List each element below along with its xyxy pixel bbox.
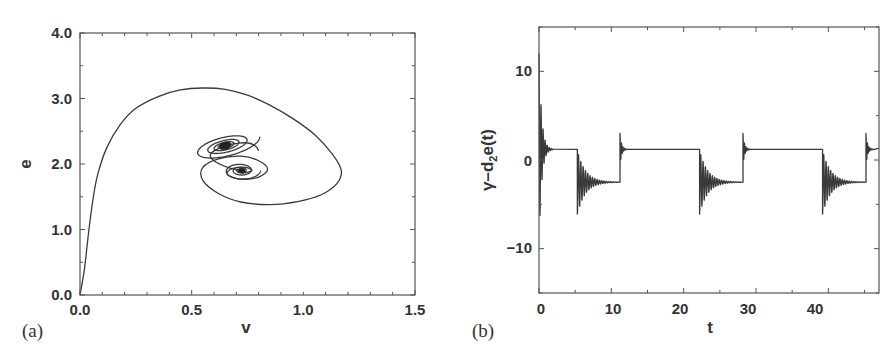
panel-a-phase-plot: 0.0 0.5 1.0 1.5 0.0 1.0 2.0 3.0 4.0 v e … (16, 24, 425, 342)
b-xtick-1: 10 (605, 300, 622, 317)
a-ytick-2: 2.0 (51, 155, 72, 172)
b-xlabel: t (707, 318, 713, 337)
panel-a-ticks (80, 33, 415, 295)
figure: 0.0 0.5 1.0 1.5 0.0 1.0 2.0 3.0 4.0 v e … (0, 0, 894, 363)
phase-trajectory (80, 88, 341, 295)
b-ytick-1: 0 (524, 152, 532, 169)
a-ytick-1: 1.0 (51, 221, 72, 238)
a-ytick-4: 4.0 (51, 24, 72, 41)
panel-b-label: (b) (472, 320, 494, 342)
a-xtick-2: 1.0 (293, 301, 314, 318)
b-ytick-0: −10 (507, 239, 532, 256)
a-xlabel: v (241, 318, 251, 337)
panel-b-time-series: 0 10 20 30 40 −10 0 10 t γ–d2e(t) (b) (472, 27, 879, 342)
time-series-signal (539, 54, 879, 216)
a-xtick-0: 0.0 (70, 301, 91, 318)
b-xtick-2: 20 (672, 300, 689, 317)
panel-a-frame (80, 33, 415, 295)
a-ytick-3: 3.0 (51, 90, 72, 107)
b-ylabel-tail: e(t) (478, 129, 497, 155)
b-ylabel: γ–d2e(t) (478, 129, 499, 191)
a-xtick-1: 0.5 (181, 301, 202, 318)
b-xtick-4: 40 (807, 300, 824, 317)
a-xtick-3: 1.5 (405, 301, 426, 318)
b-ylabel-main: γ–d (478, 162, 497, 191)
panel-a-label: (a) (22, 320, 43, 342)
panel-b-frame (539, 27, 879, 293)
panel-b-ticks (539, 27, 879, 293)
a-ylabel: e (16, 159, 35, 168)
a-ytick-0: 0.0 (51, 286, 72, 303)
b-ytick-2: 10 (515, 62, 532, 79)
b-xtick-3: 30 (740, 300, 757, 317)
b-xtick-0: 0 (537, 300, 545, 317)
